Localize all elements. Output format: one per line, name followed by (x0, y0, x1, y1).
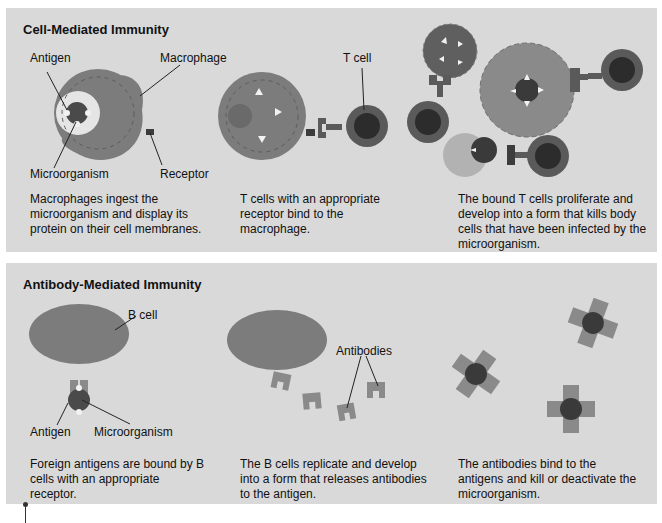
label-microorganism: Microorganism (94, 425, 173, 439)
label-receptor: Receptor (160, 167, 209, 181)
caption-step-2: T cells with an appropriate receptor bin… (240, 192, 415, 237)
antigen-presenting-macrophage-icon (218, 72, 315, 160)
label-b-cell: B cell (128, 308, 157, 322)
t-cell-icon (318, 105, 388, 147)
label-antigen: Antigen (30, 51, 71, 65)
caption-step-3: The bound T cells proliferate and develo… (458, 192, 658, 252)
t-cell-icon (507, 135, 569, 177)
infected-cell-small-icon (423, 24, 477, 78)
b-cell-icon (29, 304, 129, 364)
caption-step-2: The B cells replicate and develop into a… (240, 457, 435, 502)
b-cell-icon (227, 310, 327, 370)
label-antibodies: Antibodies (336, 344, 392, 358)
antibody-complex-icon (443, 341, 510, 408)
infected-cell-large-icon (480, 43, 574, 137)
label-microorganism: Microorganism (30, 167, 109, 181)
caption-step-3: The antibodies bind to the antigens and … (458, 457, 643, 502)
killed-cell-icon (443, 133, 497, 177)
immunity-diagram-art (0, 0, 662, 523)
pointer-marker-line (25, 505, 26, 523)
label-t-cell: T cell (343, 51, 371, 65)
t-cell-icon (570, 49, 643, 92)
caption-step-1: Macrophages ingest the microorganism and… (30, 192, 210, 237)
t-cell-icon (407, 75, 451, 143)
antibody-icon (271, 371, 385, 421)
label-antigen: Antigen (30, 425, 71, 439)
antibody-complex-icon (562, 292, 624, 354)
label-macrophage: Macrophage (160, 51, 227, 65)
antibody-complex-icon (547, 385, 595, 433)
caption-step-1: Foreign antigens are bound by B cells wi… (30, 457, 205, 502)
